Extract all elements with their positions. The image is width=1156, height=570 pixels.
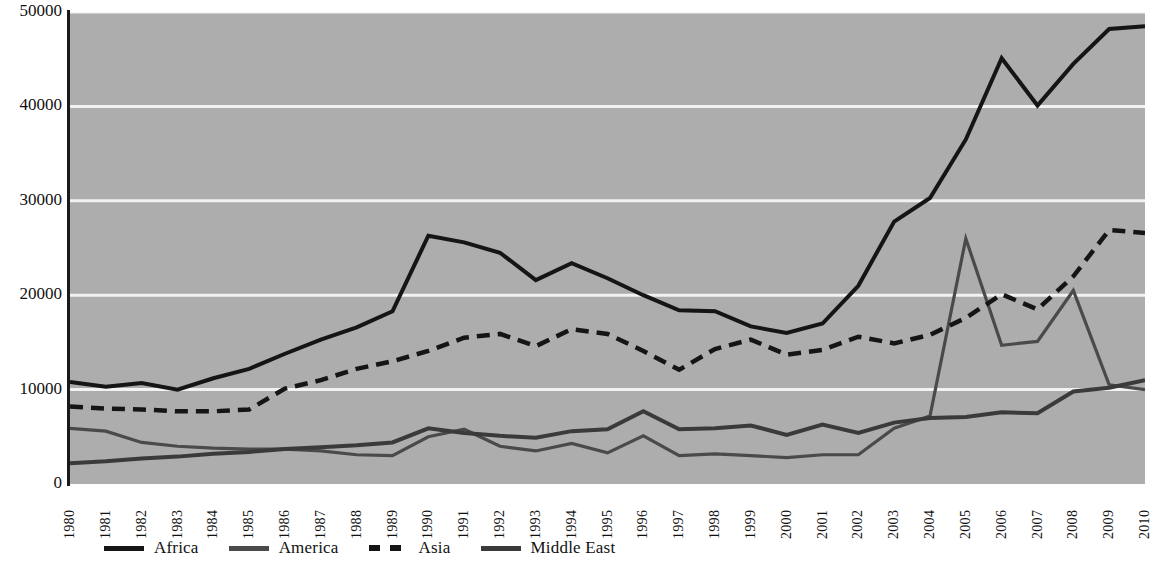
x-axis-tick-label: 1994 xyxy=(565,489,579,539)
x-axis-tick-label: 1981 xyxy=(99,489,113,539)
plot-svg xyxy=(70,12,1145,484)
x-axis-tick-label: 1989 xyxy=(386,489,400,539)
legend-swatch-icon xyxy=(229,546,269,551)
y-axis-tick-label: 10000 xyxy=(0,379,62,399)
y-axis-tick-label: 20000 xyxy=(0,284,62,304)
x-axis-tick-label: 1980 xyxy=(63,489,77,539)
x-axis-tick-label: 1998 xyxy=(708,489,722,539)
legend-label: Middle East xyxy=(531,538,616,558)
x-axis-tick-label: 1983 xyxy=(171,489,185,539)
series-line-asia xyxy=(70,230,1145,411)
legend-item-africa[interactable]: Africa xyxy=(104,538,199,558)
legend-swatch-icon xyxy=(369,545,409,551)
x-axis-tick-label: 1988 xyxy=(350,489,364,539)
x-axis-tick-label: 1995 xyxy=(601,489,615,539)
legend-swatch-icon xyxy=(104,546,144,551)
legend-label: America xyxy=(279,538,339,558)
x-axis-tick-label: 2002 xyxy=(851,489,865,539)
x-axis-tick-label: 1999 xyxy=(744,489,758,539)
x-axis-tick-label: 2003 xyxy=(887,489,901,539)
legend-label: Africa xyxy=(154,538,199,558)
x-axis-tick-label: 1985 xyxy=(242,489,256,539)
y-axis-tick-label: 30000 xyxy=(0,190,62,210)
legend-item-asia[interactable]: Asia xyxy=(369,538,451,558)
line-chart: 50000400003000020000100000 1980198119821… xyxy=(0,0,1156,570)
x-axis-tick-label: 2007 xyxy=(1031,489,1045,539)
legend: AfricaAmericaAsiaMiddle East xyxy=(104,534,645,562)
y-axis-tick-label: 0 xyxy=(0,473,62,493)
x-axis-tick-label: 1984 xyxy=(206,489,220,539)
legend-item-middle-east[interactable]: Middle East xyxy=(481,538,616,558)
x-axis-tick-label: 1982 xyxy=(135,489,149,539)
legend-item-america[interactable]: America xyxy=(229,538,339,558)
series-line-america xyxy=(70,239,1145,458)
series-line-middle-east xyxy=(70,380,1145,463)
x-axis-tick-label: 1996 xyxy=(636,489,650,539)
x-axis-tick-label: 2008 xyxy=(1066,489,1080,539)
x-axis-tick-label: 1986 xyxy=(278,489,292,539)
x-axis-tick-label: 2009 xyxy=(1102,489,1116,539)
y-axis-tick-label: 50000 xyxy=(0,1,62,21)
x-axis-tick-label: 2010 xyxy=(1138,489,1152,539)
x-axis-tick-label: 1991 xyxy=(457,489,471,539)
x-axis-tick-label: 2006 xyxy=(995,489,1009,539)
x-axis-tick-label: 2004 xyxy=(923,489,937,539)
x-axis-tick-label: 1993 xyxy=(529,489,543,539)
x-axis-tick-label: 2001 xyxy=(816,489,830,539)
x-axis-tick-label: 1997 xyxy=(672,489,686,539)
x-axis-tick-label: 1987 xyxy=(314,489,328,539)
x-axis-tick-label: 2000 xyxy=(780,489,794,539)
x-axis-tick-label: 1992 xyxy=(493,489,507,539)
legend-label: Asia xyxy=(419,538,451,558)
series-lines xyxy=(70,26,1145,463)
x-axis-tick-label: 1990 xyxy=(421,489,435,539)
legend-swatch-icon xyxy=(481,546,521,551)
y-axis-spine xyxy=(67,10,70,486)
plot-area xyxy=(70,12,1145,484)
y-axis-tick-label: 40000 xyxy=(0,95,62,115)
x-axis-tick-label: 2005 xyxy=(959,489,973,539)
